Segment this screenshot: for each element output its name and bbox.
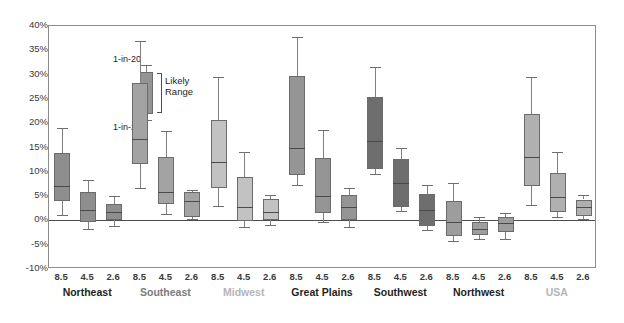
box-plot <box>446 26 462 269</box>
median-line <box>393 183 409 184</box>
box-plot <box>237 26 253 269</box>
whisker-upper <box>427 185 428 194</box>
box-plot <box>132 26 148 269</box>
chart-root: 40%35%30%25%20%15%10%5%0%-5%-10% 1-in-20… <box>0 0 624 323</box>
y-axis-tick-label: -10% <box>4 263 48 273</box>
box-plot <box>80 26 96 269</box>
box-plot <box>367 26 383 269</box>
x-axis-scenario-label: 2.6 <box>335 271 361 282</box>
median-line <box>263 212 279 213</box>
box-plot <box>184 26 200 269</box>
box-plot <box>550 26 566 269</box>
box-likely-range <box>54 153 70 201</box>
box-likely-range <box>132 83 148 164</box>
whisker-upper <box>218 77 219 120</box>
whisker-upper <box>114 196 115 204</box>
y-axis-tick-label: 25% <box>4 93 48 103</box>
whisker-lower <box>531 186 532 205</box>
median-line <box>184 201 200 202</box>
box-likely-range <box>315 158 331 212</box>
x-axis-group-label: USA <box>487 286 624 298</box>
y-axis-tick-label: 15% <box>4 142 48 152</box>
y-axis-tick-label: 10% <box>4 166 48 176</box>
whisker-upper <box>531 77 532 115</box>
whisker-upper <box>557 152 558 173</box>
median-line <box>367 141 383 142</box>
y-axis-tick-label: 5% <box>4 190 48 200</box>
whisker-upper <box>375 67 376 97</box>
whisker-cap-lower <box>370 174 381 175</box>
whisker-cap-lower <box>318 222 329 223</box>
whisker-upper <box>401 148 402 160</box>
whisker-cap-upper <box>422 185 433 186</box>
box-likely-range <box>446 201 462 236</box>
box-plot <box>106 26 122 269</box>
box-likely-range <box>80 192 96 222</box>
median-line <box>472 229 488 230</box>
whisker-cap-upper <box>109 196 120 197</box>
median-line <box>106 212 122 213</box>
box-plot <box>472 26 488 269</box>
box-likely-range <box>550 173 566 212</box>
whisker-cap-lower <box>239 227 250 228</box>
whisker-upper <box>166 131 167 157</box>
whisker-upper <box>297 37 298 76</box>
x-axis-scenario-label: 2.6 <box>492 271 518 282</box>
whisker-cap-lower <box>500 239 511 240</box>
whisker-cap-upper <box>474 217 485 218</box>
whisker-lower <box>505 232 506 240</box>
median-line <box>550 197 566 198</box>
plot-area: 1-in-20 1-in-20 Likely Range <box>48 25 596 268</box>
whisker-cap-upper <box>213 77 224 78</box>
whisker-lower <box>349 220 350 227</box>
x-axis-scenario-label: 8.5 <box>126 271 152 282</box>
box-likely-range <box>237 177 253 222</box>
y-axis-tick-label: 20% <box>4 117 48 127</box>
whisker-cap-upper <box>135 41 146 42</box>
whisker-lower <box>140 164 141 188</box>
y-axis-tick-label: 0% <box>4 215 48 225</box>
box-plot <box>393 26 409 269</box>
box-plot <box>263 26 279 269</box>
x-axis-scenario-label: 4.5 <box>387 271 413 282</box>
box-plot <box>419 26 435 269</box>
box-likely-range <box>524 114 540 186</box>
whisker-cap-upper <box>344 188 355 189</box>
whisker-cap-lower <box>474 239 485 240</box>
x-axis-scenario-label: 2.6 <box>257 271 283 282</box>
y-axis-tick-label: 35% <box>4 45 48 55</box>
median-line <box>419 210 435 211</box>
box-plot <box>315 26 331 269</box>
median-line <box>132 139 148 140</box>
x-axis-scenario-label: 8.5 <box>440 271 466 282</box>
whisker-cap-upper <box>318 130 329 131</box>
box-likely-range <box>184 192 200 217</box>
x-axis-scenario-label: 8.5 <box>205 271 231 282</box>
x-axis-scenario-label: 4.5 <box>544 271 570 282</box>
box-likely-range <box>367 97 383 168</box>
whisker-lower <box>323 213 324 223</box>
x-axis-scenario-label: 4.5 <box>74 271 100 282</box>
whisker-cap-lower <box>292 185 303 186</box>
box-likely-range <box>498 217 514 231</box>
whisker-cap-upper <box>578 195 589 196</box>
x-axis-scenario-label: 2.6 <box>100 271 126 282</box>
whisker-cap-upper <box>500 213 511 214</box>
whisker-cap-lower <box>265 225 276 226</box>
median-line <box>158 192 174 193</box>
x-axis-scenario-label: 8.5 <box>283 271 309 282</box>
box-likely-range <box>211 120 227 189</box>
whisker-cap-lower <box>448 241 459 242</box>
x-axis-scenario-label: 4.5 <box>309 271 335 282</box>
y-axis-tick-label: 40% <box>4 20 48 30</box>
whisker-cap-lower <box>57 215 68 216</box>
whisker-cap-upper <box>265 195 276 196</box>
whisker-lower <box>166 204 167 214</box>
whisker-cap-upper <box>526 77 537 78</box>
whisker-lower <box>88 222 89 229</box>
whisker-cap-upper <box>57 128 68 129</box>
whisker-cap-lower <box>135 188 146 189</box>
whisker-cap-lower <box>213 206 224 207</box>
x-axis-scenario-label: 8.5 <box>361 271 387 282</box>
box-plot <box>289 26 305 269</box>
